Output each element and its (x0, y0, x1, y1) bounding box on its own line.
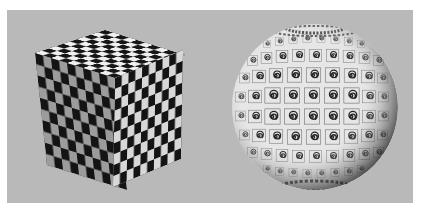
sphere-shading (232, 24, 398, 190)
spiral-textured-sphere (232, 21, 398, 191)
checkered-cube (35, 30, 185, 190)
rendered-scene (0, 0, 421, 212)
